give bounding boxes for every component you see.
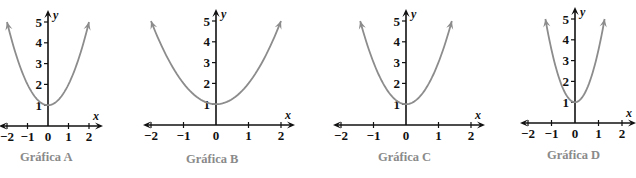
y-axis-label: y	[51, 8, 59, 22]
x-tick-label: 1	[65, 129, 72, 144]
y-tick-label: 4	[204, 34, 211, 49]
x-tick-label: 0	[572, 126, 579, 141]
graph-caption: Gráfica C	[378, 150, 431, 165]
x-tick-label: 1	[245, 128, 252, 143]
y-axis-label: y	[578, 5, 586, 19]
x-tick-label: −1	[21, 129, 35, 144]
x-tick-label: −2	[334, 128, 348, 143]
x-tick-label: −2	[144, 128, 158, 143]
x-axis-label: x	[625, 106, 632, 120]
x-tick-label: 2	[468, 128, 475, 143]
x-tick-label: 2	[619, 126, 626, 141]
y-tick-label: 2	[36, 77, 43, 92]
x-tick-label: 2	[278, 128, 285, 143]
y-tick-label: 3	[394, 55, 401, 70]
x-tick-label: 0	[45, 129, 52, 144]
x-tick-label: −1	[545, 126, 559, 141]
x-tick-label: 2	[86, 129, 93, 144]
graph-d: −2−101212345xy	[520, 5, 636, 141]
y-axis-label: y	[219, 7, 227, 21]
x-axis-label: x	[92, 109, 99, 123]
x-tick-label: −1	[177, 128, 191, 143]
y-tick-label: 5	[394, 14, 401, 29]
y-tick-label: 5	[204, 14, 211, 29]
y-tick-label: 4	[36, 35, 43, 50]
y-tick-label: 5	[36, 15, 43, 30]
y-axis-label: y	[409, 7, 417, 21]
y-tick-label: 2	[563, 74, 570, 89]
y-tick-label: 5	[563, 12, 570, 27]
x-tick-label: 0	[213, 128, 220, 143]
y-tick-label: 1	[204, 97, 211, 112]
y-tick-label: 2	[394, 76, 401, 91]
y-tick-label: 4	[394, 34, 401, 49]
x-tick-label: −1	[367, 128, 381, 143]
y-tick-label: 3	[563, 53, 570, 68]
x-axis-label: x	[474, 108, 481, 122]
x-tick-label: 1	[435, 128, 442, 143]
y-tick-label: 2	[204, 76, 211, 91]
y-tick-label: 4	[563, 32, 570, 47]
graph-caption: Gráfica A	[20, 150, 72, 165]
graph-a: −2−101212345xy	[0, 8, 103, 144]
graph-b: −2−101212345xy	[143, 7, 295, 143]
x-axis-label: x	[284, 108, 291, 122]
graph-caption: Gráfica B	[186, 152, 238, 167]
graph-caption: Gráfica D	[547, 148, 600, 163]
parabola-graphs: −2−101212345xy−2−101212345xy−2−101212345…	[0, 0, 636, 178]
y-tick-label: 3	[36, 56, 43, 71]
x-tick-label: −2	[0, 129, 14, 144]
x-tick-label: −2	[521, 126, 535, 141]
y-tick-label: 3	[204, 55, 211, 70]
x-tick-label: 1	[595, 126, 602, 141]
graph-c: −2−101212345xy	[333, 7, 485, 143]
x-tick-label: 0	[403, 128, 410, 143]
